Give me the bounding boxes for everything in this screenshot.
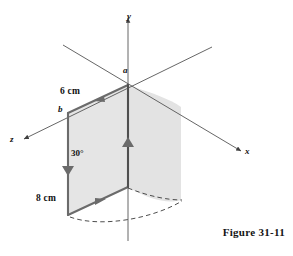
z-axis-label: z <box>10 134 14 144</box>
swept-region-shading <box>128 85 181 201</box>
bottom-edge-current-arrow <box>95 198 106 205</box>
angle-label-30deg: 30° <box>71 148 84 158</box>
dimension-label-8cm: 8 cm <box>36 193 56 203</box>
figure-diagram <box>0 0 293 256</box>
y-axis-label: y <box>127 11 131 21</box>
figure-caption: Figure 31-11 <box>223 226 285 238</box>
vertex-label-b: b <box>58 104 63 114</box>
figure-31-11: y x z a b 6 cm 8 cm 30° Figure 31-11 <box>0 0 293 256</box>
vertex-label-a: a <box>123 65 128 75</box>
dimension-label-6cm: 6 cm <box>60 86 80 96</box>
x-axis-label: x <box>245 146 250 156</box>
